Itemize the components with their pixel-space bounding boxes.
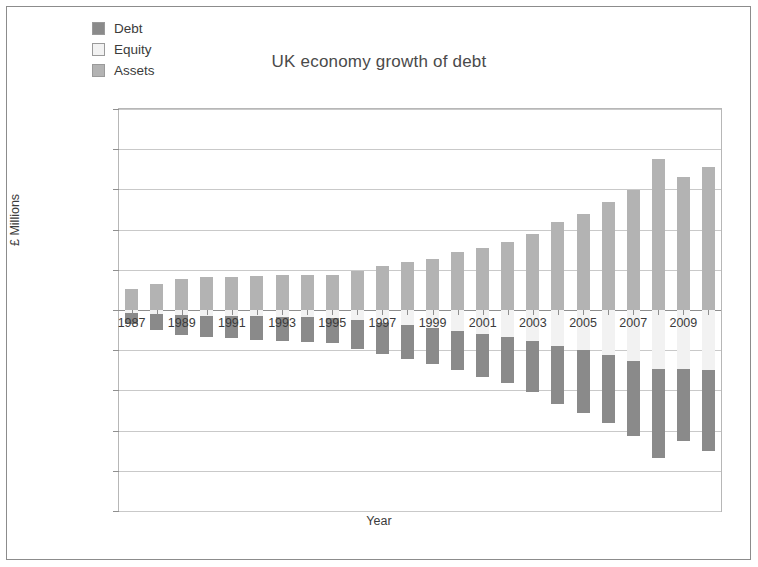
y-axis-tick-mark	[113, 431, 119, 432]
bar-segment-assets	[326, 275, 339, 310]
y-axis-tick-mark	[113, 390, 119, 391]
x-axis-tick-label: 1987	[118, 316, 146, 330]
bar-segment-assets	[476, 248, 489, 310]
x-axis-tick-mark	[583, 310, 584, 315]
bar-segment-debt	[702, 370, 715, 450]
x-axis-tick-label: 2001	[469, 316, 497, 330]
bar-segment-assets	[276, 275, 289, 310]
x-axis-tick-label: 1997	[368, 316, 396, 330]
bar-segment-assets	[551, 222, 564, 310]
x-axis-tick-mark	[558, 310, 559, 315]
x-axis-tick-mark	[533, 310, 534, 315]
bar-segment-debt	[627, 361, 640, 437]
y-axis-tick-mark	[113, 310, 119, 311]
bar-segment-assets	[702, 167, 715, 310]
x-axis-tick-mark	[282, 310, 283, 315]
x-axis-tick-mark	[407, 310, 408, 315]
bar-segment-debt	[451, 331, 464, 370]
bar-segment-assets	[451, 252, 464, 310]
x-axis-tick-mark	[382, 310, 383, 315]
x-axis-tick-label: 2005	[569, 316, 597, 330]
x-axis-tick-mark	[483, 310, 484, 315]
y-axis-tick-mark	[113, 189, 119, 190]
y-axis-tick-mark	[113, 471, 119, 472]
bar-segment-equity	[602, 310, 615, 355]
plot-area: 25,000,00020,000,00015,000,00010,000,000…	[118, 108, 722, 512]
x-axis-tick-mark	[157, 310, 158, 315]
bar-segment-debt	[602, 355, 615, 423]
x-axis-tick-label: 1995	[318, 316, 346, 330]
bar-segment-debt	[351, 320, 364, 348]
bar-segment-assets	[150, 284, 163, 310]
bar-segment-assets	[677, 177, 690, 310]
bar-segment-debt	[501, 337, 514, 383]
x-axis-tick-mark	[508, 310, 509, 315]
x-axis-tick-mark	[458, 310, 459, 315]
bar-segment-debt	[577, 350, 590, 413]
bar-segment-debt	[200, 316, 213, 338]
x-axis-tick-mark	[332, 310, 333, 315]
x-axis-tick-label: 2003	[519, 316, 547, 330]
x-axis-tick-label: 1993	[268, 316, 296, 330]
x-axis-title: Year	[0, 514, 758, 528]
bar-segment-debt	[652, 369, 665, 457]
x-axis-tick-label: 1991	[218, 316, 246, 330]
x-axis-tick-mark	[132, 310, 133, 315]
x-axis-tick-mark	[683, 310, 684, 315]
bar-segment-assets	[250, 276, 263, 310]
y-axis-tick-mark	[113, 149, 119, 150]
x-axis-tick-label: 1999	[419, 316, 447, 330]
x-axis-tick-mark	[658, 310, 659, 315]
bar-segment-debt	[150, 314, 163, 330]
y-axis-tick-mark	[113, 350, 119, 351]
bar-segment-assets	[200, 277, 213, 310]
bar-segment-equity	[551, 310, 564, 346]
bar-segment-equity	[652, 310, 665, 369]
bar-segment-assets	[351, 271, 364, 310]
y-axis-tick-mark	[113, 109, 119, 110]
gridline	[119, 109, 721, 110]
bar-segment-assets	[426, 259, 439, 310]
bar-segment-debt	[301, 317, 314, 342]
bar-segment-assets	[577, 214, 590, 310]
bar-segment-assets	[301, 275, 314, 310]
x-axis-tick-mark	[433, 310, 434, 315]
bar-segment-debt	[476, 334, 489, 377]
legend-item-debt: Debt	[92, 18, 242, 39]
chart-figure: Debt Equity Assets UK economy growth of …	[0, 0, 758, 567]
gridline	[119, 149, 721, 150]
bar-segment-debt	[401, 325, 414, 359]
bar-segment-assets	[526, 234, 539, 310]
bar-segment-equity	[702, 310, 715, 370]
chart-title: UK economy growth of debt	[0, 52, 758, 72]
x-axis-tick-mark	[633, 310, 634, 315]
bar-segment-assets	[627, 190, 640, 310]
bar-segment-assets	[376, 266, 389, 310]
legend-label-debt: Debt	[114, 21, 143, 36]
x-axis-tick-label: 2007	[619, 316, 647, 330]
bar-segment-assets	[652, 159, 665, 310]
y-axis-tick-mark	[113, 230, 119, 231]
x-axis-tick-mark	[257, 310, 258, 315]
y-axis-title: £ Millions	[8, 194, 22, 246]
gridline	[119, 511, 721, 512]
x-axis-tick-mark	[307, 310, 308, 315]
bar-segment-debt	[250, 316, 263, 339]
x-axis-tick-mark	[708, 310, 709, 315]
x-axis-tick-mark	[357, 310, 358, 315]
bar-segment-debt	[677, 369, 690, 441]
bar-segment-assets	[401, 262, 414, 310]
gridline	[119, 471, 721, 472]
x-axis-tick-mark	[207, 310, 208, 315]
bar-segment-assets	[501, 242, 514, 310]
bar-segment-debt	[526, 341, 539, 392]
bar-segment-debt	[551, 346, 564, 404]
x-axis-tick-label: 2009	[669, 316, 697, 330]
y-axis-tick-mark	[113, 270, 119, 271]
bar-segment-assets	[602, 202, 615, 310]
bar-segment-debt	[426, 328, 439, 364]
x-axis-tick-mark	[182, 310, 183, 315]
x-axis-tick-mark	[608, 310, 609, 315]
bar-segment-assets	[125, 289, 138, 310]
legend-swatch-debt	[92, 22, 105, 35]
